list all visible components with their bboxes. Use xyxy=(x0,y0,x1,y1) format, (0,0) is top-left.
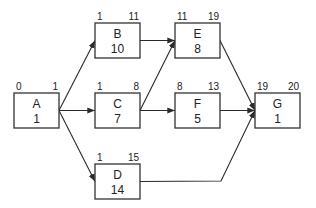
node-c: C718 xyxy=(95,81,140,128)
node-duration: 5 xyxy=(194,112,201,126)
node-e: E81119 xyxy=(175,11,220,58)
node-duration: 14 xyxy=(111,183,125,197)
node-duration: 7 xyxy=(114,112,121,126)
edge-c-to-e xyxy=(140,41,175,111)
node-start-time: 0 xyxy=(16,81,22,92)
node-start-time: 8 xyxy=(177,81,183,92)
node-a: A101 xyxy=(14,81,59,128)
node-name: A xyxy=(32,97,40,111)
edge-e-to-g xyxy=(220,41,255,111)
node-duration: 1 xyxy=(33,112,40,126)
node-finish-time: 11 xyxy=(129,11,140,22)
edge-a-to-b xyxy=(59,41,95,111)
node-name: G xyxy=(273,97,282,111)
node-finish-time: 8 xyxy=(133,81,139,92)
node-finish-time: 20 xyxy=(288,81,300,92)
node-duration: 8 xyxy=(194,42,201,56)
node-start-time: 19 xyxy=(257,81,269,92)
node-finish-time: 13 xyxy=(208,81,220,92)
nodes-layer: A101B10111C718D14115E81119F5813G11920 xyxy=(14,11,300,199)
node-g: G11920 xyxy=(255,81,300,128)
network-diagram: A101B10111C718D14115E81119F5813G11920 xyxy=(0,0,316,208)
node-name: B xyxy=(113,27,121,41)
node-name: E xyxy=(193,27,201,41)
edge-a-to-d xyxy=(59,111,95,182)
node-b: B10111 xyxy=(95,11,140,58)
node-duration: 1 xyxy=(274,112,281,126)
node-duration: 10 xyxy=(111,42,125,56)
node-name: D xyxy=(113,168,122,182)
node-start-time: 11 xyxy=(177,11,188,22)
node-start-time: 1 xyxy=(97,152,103,163)
node-finish-time: 19 xyxy=(208,11,220,22)
node-name: C xyxy=(113,97,122,111)
node-d: D14115 xyxy=(95,152,140,199)
node-finish-time: 1 xyxy=(52,81,58,92)
node-name: F xyxy=(194,97,201,111)
node-finish-time: 15 xyxy=(128,152,140,163)
edges-layer xyxy=(59,41,255,182)
node-f: F5813 xyxy=(175,81,220,128)
node-start-time: 1 xyxy=(97,81,103,92)
node-start-time: 1 xyxy=(97,11,103,22)
